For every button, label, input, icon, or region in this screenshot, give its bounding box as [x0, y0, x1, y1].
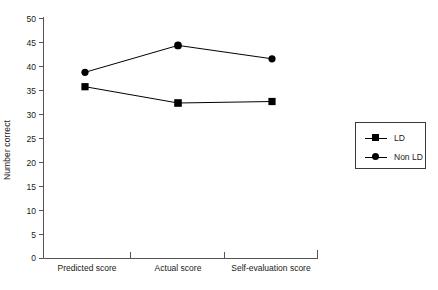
series-non-ld — [81, 42, 275, 76]
x-tick-label-self-evaluation-score: Self-evaluation score — [221, 263, 321, 273]
data-point-ld-self-evaluation — [268, 98, 275, 105]
chart-figure: Number correct 50 45 40 35 30 25 20 15 1… — [0, 0, 438, 290]
chart-legend: LD Non LD — [355, 122, 426, 169]
series-non-ld-line — [85, 45, 272, 72]
x-axis-ticks — [131, 250, 318, 259]
data-point-non-ld-predicted — [81, 69, 88, 76]
data-point-ld-actual — [174, 99, 182, 107]
data-point-non-ld-actual — [174, 42, 182, 50]
legend-item-non-ld: Non LD — [356, 151, 425, 163]
data-point-ld-predicted — [81, 83, 88, 90]
legend-item-ld: LD — [356, 132, 425, 144]
x-tick-label-actual-score: Actual score — [133, 263, 223, 273]
series-ld — [81, 83, 275, 107]
data-point-non-ld-self-evaluation — [268, 55, 275, 62]
y-axis-ticks — [39, 19, 44, 259]
x-tick-label-predicted-score: Predicted score — [42, 263, 132, 273]
legend-label-ld: LD — [394, 133, 405, 143]
legend-label-non-ld: Non LD — [394, 152, 423, 162]
legend-marker-square-icon — [363, 132, 389, 144]
legend-marker-circle-icon — [363, 151, 389, 163]
